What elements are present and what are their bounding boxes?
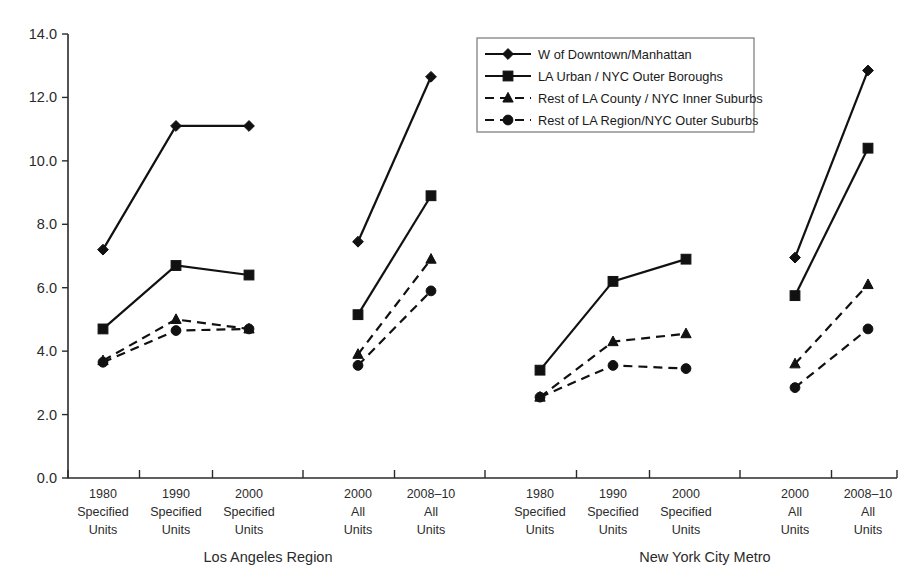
y-tick-label: 6.0 bbox=[37, 280, 57, 296]
series-line bbox=[103, 126, 249, 250]
circle-marker bbox=[426, 286, 436, 296]
series-line bbox=[358, 77, 431, 242]
svg-text:Units: Units bbox=[89, 523, 117, 537]
svg-text:Units: Units bbox=[781, 523, 809, 537]
series-circle bbox=[98, 286, 873, 402]
svg-text:1980: 1980 bbox=[89, 487, 117, 501]
circle-marker bbox=[608, 361, 618, 371]
circle-marker bbox=[503, 115, 513, 125]
square-marker bbox=[171, 261, 181, 271]
square-marker bbox=[681, 254, 691, 264]
x-category-label: 1980SpecifiedUnits bbox=[77, 487, 128, 537]
svg-text:All: All bbox=[861, 505, 875, 519]
series-line bbox=[540, 259, 686, 370]
svg-text:All: All bbox=[788, 505, 802, 519]
svg-text:1990: 1990 bbox=[599, 487, 627, 501]
x-category-label: 2008–10AllUnits bbox=[844, 487, 893, 537]
svg-text:Units: Units bbox=[344, 523, 372, 537]
svg-text:2008–10: 2008–10 bbox=[407, 487, 456, 501]
diamond-marker bbox=[98, 244, 109, 255]
x-category-label: 2008–10AllUnits bbox=[407, 487, 456, 537]
line-chart: 0.02.04.06.08.010.012.014.01980Specified… bbox=[0, 0, 903, 587]
square-marker bbox=[98, 324, 108, 334]
series-triangle bbox=[98, 254, 873, 402]
diamond-marker bbox=[171, 121, 182, 132]
x-category-label: 2000AllUnits bbox=[344, 487, 372, 537]
x-category-label: 1990SpecifiedUnits bbox=[587, 487, 638, 537]
svg-text:Specified: Specified bbox=[587, 505, 638, 519]
circle-marker bbox=[863, 324, 873, 334]
series-line bbox=[358, 196, 431, 315]
legend-label: Rest of LA County / NYC Inner Suburbs bbox=[538, 91, 763, 106]
square-marker bbox=[790, 291, 800, 301]
triangle-marker bbox=[171, 314, 181, 324]
legend-label: LA Urban / NYC Outer Boroughs bbox=[538, 69, 723, 84]
circle-marker bbox=[171, 326, 181, 336]
circle-marker bbox=[244, 324, 254, 334]
svg-text:2000: 2000 bbox=[672, 487, 700, 501]
svg-text:2000: 2000 bbox=[235, 487, 263, 501]
x-category-label: 1990SpecifiedUnits bbox=[150, 487, 201, 537]
y-axis-ticks: 0.02.04.06.08.010.012.014.0 bbox=[29, 26, 68, 486]
series-line bbox=[795, 148, 868, 295]
diamond-marker bbox=[790, 252, 801, 263]
square-marker bbox=[503, 71, 513, 81]
svg-text:Specified: Specified bbox=[77, 505, 128, 519]
svg-text:Units: Units bbox=[417, 523, 445, 537]
svg-text:2000: 2000 bbox=[344, 487, 372, 501]
y-tick-label: 0.0 bbox=[37, 470, 57, 486]
svg-text:Specified: Specified bbox=[660, 505, 711, 519]
y-tick-label: 8.0 bbox=[37, 216, 57, 232]
x-category-label: 2000SpecifiedUnits bbox=[223, 487, 274, 537]
x-category-label: 1980SpecifiedUnits bbox=[514, 487, 565, 537]
y-tick-label: 2.0 bbox=[37, 407, 57, 423]
svg-text:All: All bbox=[424, 505, 438, 519]
diamond-marker bbox=[426, 71, 437, 82]
series-square bbox=[98, 143, 873, 375]
svg-text:Units: Units bbox=[162, 523, 190, 537]
x-category-label: 2000SpecifiedUnits bbox=[660, 487, 711, 537]
group-labels: Los Angeles RegionNew York City Metro bbox=[204, 549, 771, 565]
svg-text:2008–10: 2008–10 bbox=[844, 487, 893, 501]
group-label: Los Angeles Region bbox=[204, 549, 333, 565]
triangle-marker bbox=[426, 254, 436, 264]
square-marker bbox=[608, 276, 618, 286]
square-marker bbox=[535, 365, 545, 375]
x-axis-ticks bbox=[68, 470, 897, 478]
series-line bbox=[358, 291, 431, 366]
square-marker bbox=[353, 310, 363, 320]
circle-marker bbox=[353, 361, 363, 371]
svg-text:Specified: Specified bbox=[150, 505, 201, 519]
y-tick-label: 4.0 bbox=[37, 343, 57, 359]
svg-text:1990: 1990 bbox=[162, 487, 190, 501]
svg-text:Units: Units bbox=[854, 523, 882, 537]
x-category-label: 2000AllUnits bbox=[781, 487, 809, 537]
circle-marker bbox=[98, 357, 108, 367]
svg-text:Units: Units bbox=[526, 523, 554, 537]
y-tick-label: 10.0 bbox=[29, 153, 57, 169]
group-label: New York City Metro bbox=[639, 549, 770, 565]
circle-marker bbox=[535, 392, 545, 402]
svg-text:Units: Units bbox=[672, 523, 700, 537]
svg-text:Units: Units bbox=[235, 523, 263, 537]
diamond-marker bbox=[353, 236, 364, 247]
svg-text:2000: 2000 bbox=[781, 487, 809, 501]
series-line bbox=[795, 70, 868, 257]
svg-text:Specified: Specified bbox=[223, 505, 274, 519]
y-tick-label: 14.0 bbox=[29, 26, 57, 42]
svg-text:All: All bbox=[351, 505, 365, 519]
legend-label: W of Downtown/Manhattan bbox=[538, 47, 692, 62]
svg-text:Units: Units bbox=[599, 523, 627, 537]
chart-legend: W of Downtown/ManhattanLA Urban / NYC Ou… bbox=[477, 38, 763, 132]
legend-label: Rest of LA Region/NYC Outer Suburbs bbox=[538, 113, 759, 128]
y-tick-label: 12.0 bbox=[29, 89, 57, 105]
square-marker bbox=[244, 270, 254, 280]
series-line bbox=[795, 285, 868, 364]
square-marker bbox=[863, 143, 873, 153]
diamond-marker bbox=[244, 121, 255, 132]
circle-marker bbox=[681, 364, 691, 374]
chart-container: 0.02.04.06.08.010.012.014.01980Specified… bbox=[0, 0, 903, 587]
diamond-marker bbox=[863, 65, 874, 76]
circle-marker bbox=[790, 383, 800, 393]
svg-text:1980: 1980 bbox=[526, 487, 554, 501]
